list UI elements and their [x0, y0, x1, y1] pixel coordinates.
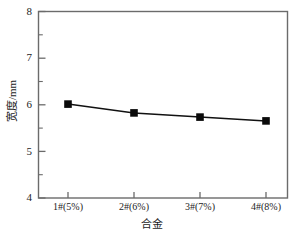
- chart-figure: 8 7 6 5 4 1#(5%) 2#(6%) 3#(7%) 4#(8%) 合金…: [0, 0, 304, 236]
- y-tick-label-5: 5: [14, 146, 32, 157]
- data-point-marker: [130, 109, 138, 117]
- data-point-marker: [64, 100, 72, 108]
- x-tick-label-1: 1#(5%): [36, 201, 100, 212]
- x-tick-label-3: 3#(7%): [168, 201, 232, 212]
- x-tick-label-4: 4#(8%): [234, 201, 298, 212]
- x-axis-title: 合金: [0, 218, 304, 230]
- data-point-marker: [196, 113, 204, 121]
- y-axis-title: 宽度/mm: [6, 67, 18, 135]
- data-point-marker: [262, 117, 270, 125]
- y-tick-label-8: 8: [14, 6, 32, 17]
- y-tick-label-7: 7: [14, 52, 32, 63]
- x-tick-label-2: 2#(6%): [102, 201, 166, 212]
- y-tick-label-4: 4: [14, 192, 32, 203]
